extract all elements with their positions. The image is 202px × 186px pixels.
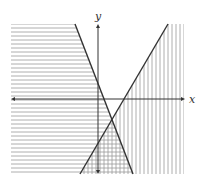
y-axis-label: y	[94, 10, 102, 23]
y-axis-up-arrow-icon	[96, 24, 100, 28]
inequality-graph: x y	[0, 0, 202, 186]
x-axis-label: x	[189, 93, 196, 106]
x-axis-right-arrow-icon	[181, 97, 185, 101]
